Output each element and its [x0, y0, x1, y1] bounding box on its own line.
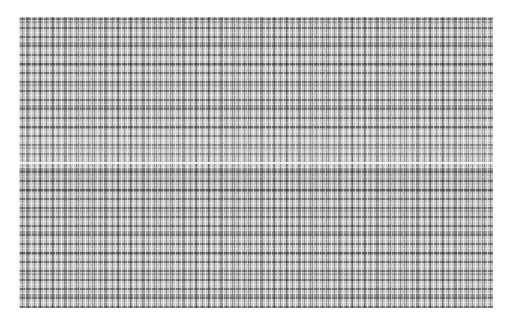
center-line — [19, 162, 493, 164]
lower-dark-band — [19, 170, 493, 200]
upper-light-band — [19, 115, 493, 155]
